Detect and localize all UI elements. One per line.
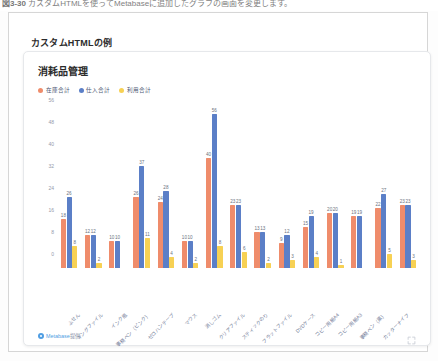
bar-2[interactable] <box>67 197 72 269</box>
bar-1[interactable] <box>351 216 356 268</box>
bar-wrapper: 11 <box>145 100 150 268</box>
bar-3[interactable] <box>242 252 247 269</box>
bar-value-label: 10 <box>109 235 114 240</box>
bar-wrapper: 19 <box>309 100 314 268</box>
bar-3[interactable] <box>217 246 222 268</box>
bar-3[interactable] <box>290 260 295 268</box>
bar-group: 23236 <box>226 100 250 268</box>
bar-wrapper: 1 <box>338 100 343 268</box>
bar-wrapper: 15 <box>303 100 308 268</box>
figure-caption: 図3-30 カスタムHTMLを使ってMetabaseに追加したグラフの画面を変更… <box>2 0 292 8</box>
bar-2[interactable] <box>309 216 314 268</box>
bar-group: 40568 <box>202 100 226 268</box>
bar-value-label: 3 <box>291 254 294 259</box>
expand-icon[interactable] <box>407 331 416 340</box>
bar-1[interactable] <box>230 205 235 268</box>
bar-wrapper: 2 <box>266 100 271 268</box>
bar-1[interactable] <box>158 202 163 268</box>
bar-3[interactable] <box>314 257 319 268</box>
bar-value-label: 13 <box>260 226 265 231</box>
bar-wrapper: 23 <box>405 100 410 268</box>
bar-3[interactable] <box>96 263 101 269</box>
bar-2[interactable] <box>115 241 120 269</box>
bar-wrapper: 28 <box>163 100 168 268</box>
bar-value-label: 5 <box>388 248 391 253</box>
bar-1[interactable] <box>133 197 138 269</box>
bar-value-label: 19 <box>309 210 314 215</box>
bar-1[interactable] <box>279 243 284 268</box>
card-footer: Metabase提供 <box>24 326 430 340</box>
metabase-credit[interactable]: Metabase提供 <box>38 332 80 340</box>
bar-2[interactable] <box>188 241 193 269</box>
bar-3[interactable] <box>145 238 150 268</box>
bar-3[interactable] <box>387 254 392 268</box>
bar-value-label: 4 <box>316 251 319 256</box>
legend-item-3[interactable]: 利用合計 <box>119 86 151 94</box>
bar-2[interactable] <box>212 114 217 268</box>
bar-2[interactable] <box>357 216 362 268</box>
bar-wrapper: 2 <box>96 100 101 268</box>
bar-2[interactable] <box>139 166 144 268</box>
metabase-credit-suffix: 提供 <box>70 333 80 339</box>
bar-value-label: 28 <box>163 185 168 190</box>
bar-2[interactable] <box>163 191 168 268</box>
bar-wrapper: 24 <box>158 100 163 268</box>
bar-value-label: 20 <box>327 207 332 212</box>
legend-dot-icon <box>119 88 124 93</box>
bar-3[interactable] <box>266 263 271 269</box>
bar-1[interactable] <box>109 241 114 269</box>
bar-group: 13132 <box>251 100 275 268</box>
bar-wrapper: 4 <box>169 100 174 268</box>
bar-value-label: 12 <box>91 229 96 234</box>
bar-value-label: 27 <box>381 188 386 193</box>
bar-wrapper: 37 <box>139 100 144 268</box>
bar-3[interactable] <box>72 246 77 268</box>
bar-value-label: 10 <box>115 235 120 240</box>
legend-item-2[interactable]: 仕入合計 <box>79 86 111 94</box>
bar-value-label: 3 <box>412 254 415 259</box>
bar-group: 24284 <box>154 100 178 268</box>
legend-item-1[interactable]: 在庫合計 <box>38 86 70 94</box>
bar-3[interactable] <box>338 265 343 268</box>
bar-1[interactable] <box>254 232 259 268</box>
bar-value-label: 18 <box>61 213 66 218</box>
bar-wrapper: 19 <box>357 100 362 268</box>
bar-value-label: 26 <box>67 191 72 196</box>
bar-1[interactable] <box>327 213 332 268</box>
bar-wrapper: 6 <box>242 100 247 268</box>
bar-wrapper <box>363 100 368 268</box>
bar-wrapper: 19 <box>351 100 356 268</box>
y-axis-tick-0: 0 <box>51 251 54 257</box>
y-axis-tick-6: 48 <box>48 119 54 125</box>
bar-1[interactable] <box>375 208 380 269</box>
metabase-brand-label: Metabase <box>46 333 70 339</box>
bar-2[interactable] <box>405 205 410 268</box>
bar-value-label: 4 <box>170 251 173 256</box>
bar-3[interactable] <box>169 257 174 268</box>
bar-value-label: 23 <box>230 199 235 204</box>
bar-value-label: 19 <box>357 210 362 215</box>
bar-2[interactable] <box>260 232 265 268</box>
bar-3[interactable] <box>193 263 198 269</box>
bar-2[interactable] <box>91 235 96 268</box>
bar-1[interactable] <box>182 241 187 269</box>
bar-1[interactable] <box>85 235 90 268</box>
bar-group: 263711 <box>130 100 154 268</box>
bar-1[interactable] <box>303 227 308 268</box>
y-axis-tick-7: 56 <box>48 97 54 103</box>
bar-3[interactable] <box>411 260 416 268</box>
bar-2[interactable] <box>381 194 386 268</box>
bar-value-label: 2 <box>98 257 101 262</box>
bar-1[interactable] <box>206 158 211 268</box>
bar-value-label: 37 <box>139 160 144 165</box>
bar-2[interactable] <box>236 205 241 268</box>
bar-1[interactable] <box>61 219 66 269</box>
bar-1[interactable] <box>400 205 405 268</box>
bar-wrapper: 12 <box>85 100 90 268</box>
bar-groups: 1826812122101026371124284101024056823236… <box>57 100 420 268</box>
bar-value-label: 19 <box>351 210 356 215</box>
bar-value-label: 2 <box>195 257 198 262</box>
bar-2[interactable] <box>333 213 338 268</box>
dashboard-card: 消耗品管理 在庫合計仕入合計利用合計 08162432404856 182681… <box>23 51 431 346</box>
bar-2[interactable] <box>284 235 289 268</box>
